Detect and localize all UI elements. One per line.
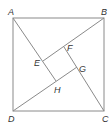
label-G: G bbox=[79, 64, 86, 74]
label-C: C bbox=[102, 114, 109, 124]
segment-AH bbox=[13, 18, 56, 81]
label-E: E bbox=[34, 58, 41, 68]
segment-CF bbox=[64, 47, 104, 111]
segment-DG bbox=[13, 67, 77, 111]
diagram-svg: A B C D E F G H bbox=[0, 0, 112, 125]
segment-BE bbox=[43, 18, 104, 61]
label-A: A bbox=[7, 7, 14, 17]
geometry-diagram: A B C D E F G H bbox=[0, 0, 112, 125]
label-B: B bbox=[101, 7, 107, 17]
label-D: D bbox=[8, 114, 15, 124]
label-F: F bbox=[67, 43, 73, 53]
outer-square bbox=[13, 18, 104, 111]
label-H: H bbox=[54, 85, 61, 95]
